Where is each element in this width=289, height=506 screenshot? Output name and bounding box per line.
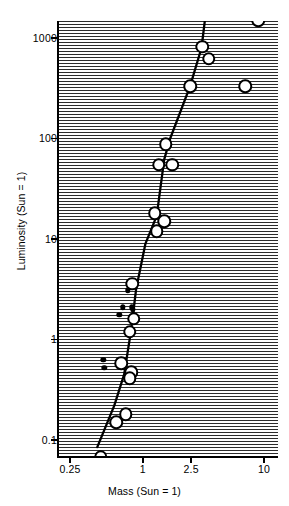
mass-luminosity-chart: 10001001010.1 0.2512.510 Luminosity (Sun… bbox=[0, 0, 289, 506]
data-point-open bbox=[183, 80, 197, 94]
data-point-open bbox=[152, 158, 166, 172]
x-tick-label: 10 bbox=[258, 464, 270, 475]
y-tick-label: 0.1 bbox=[42, 435, 57, 446]
plot-area bbox=[57, 21, 278, 457]
y-tick-label: 1 bbox=[51, 334, 57, 345]
y-axis-line bbox=[57, 21, 59, 457]
data-point-open bbox=[159, 137, 173, 151]
y-tick-label: 100 bbox=[39, 133, 57, 144]
data-point-open bbox=[238, 80, 252, 94]
x-tick-label: 1 bbox=[140, 464, 146, 475]
data-point-open bbox=[123, 325, 137, 339]
y-tick-label: 10 bbox=[45, 234, 57, 245]
data-point-open bbox=[109, 416, 123, 430]
x-axis-title: Mass (Sun = 1) bbox=[0, 485, 289, 497]
y-axis-title: Luminosity (Sun = 1) bbox=[15, 151, 27, 291]
data-point-open bbox=[127, 312, 141, 326]
x-tick-label: 2.5 bbox=[183, 464, 198, 475]
x-axis-line bbox=[57, 456, 278, 458]
data-point-open bbox=[166, 158, 180, 172]
y-tick-label: 1000 bbox=[33, 33, 57, 44]
data-point-open bbox=[150, 224, 164, 238]
data-point-open bbox=[123, 372, 137, 386]
x-tick-label: 0.25 bbox=[59, 464, 80, 475]
data-point-open bbox=[202, 52, 216, 66]
